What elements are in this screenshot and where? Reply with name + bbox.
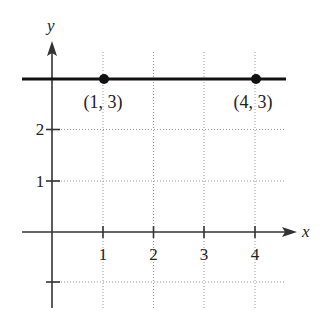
point-label-4-3: (4, 3) xyxy=(234,92,273,113)
chart-canvas: y x 1 2 3 4 1 2 (1, 3) (4, 3) xyxy=(0,0,323,330)
x-tick-label-4: 4 xyxy=(251,245,260,264)
point-1-3 xyxy=(99,74,109,84)
point-label-1-3: (1, 3) xyxy=(84,92,123,113)
y-axis-label: y xyxy=(45,16,55,35)
y-tick-label-1: 1 xyxy=(36,172,45,191)
chart-figure: y x 1 2 3 4 1 2 (1, 3) (4, 3) xyxy=(0,0,323,330)
y-tick-label-2: 2 xyxy=(36,120,45,139)
grid xyxy=(52,52,284,310)
x-axis-label: x xyxy=(301,222,310,241)
y-ticks xyxy=(46,130,60,283)
x-tick-label-3: 3 xyxy=(200,245,209,264)
x-tick-label-1: 1 xyxy=(99,245,108,264)
x-tick-label-2: 2 xyxy=(149,245,158,264)
point-4-3 xyxy=(251,74,261,84)
